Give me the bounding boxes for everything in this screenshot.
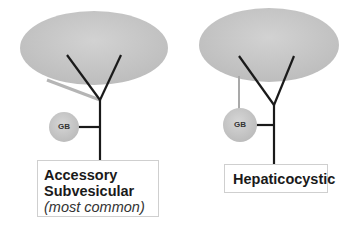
liver-shape-left xyxy=(20,11,168,85)
label-line: Subvesicular xyxy=(44,183,152,199)
diagram-right xyxy=(199,8,339,164)
liver-shape-right xyxy=(199,8,339,82)
diagram-left xyxy=(20,11,168,160)
label-line: Hepaticocystic xyxy=(233,171,327,187)
gallbladder-label-left: GB xyxy=(49,122,79,131)
label-note: (most common) xyxy=(44,199,152,215)
gallbladder-label-right: GB xyxy=(225,120,255,129)
label-line: Accessory xyxy=(44,167,152,183)
label-box-accessory-subvesicular: Accessory Subvesicular (most common) xyxy=(37,160,159,217)
label-box-hepaticocystic: Hepaticocystic xyxy=(224,164,328,193)
